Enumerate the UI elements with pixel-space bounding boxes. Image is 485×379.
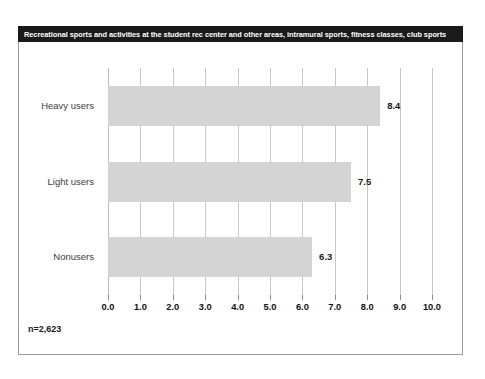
x-axis-tick — [432, 295, 433, 300]
x-axis-tick — [335, 295, 336, 300]
plot-area: 0.01.02.03.04.05.06.07.08.09.010.0Heavy … — [108, 68, 432, 295]
x-axis-tick-label: 1.0 — [134, 302, 147, 312]
x-axis-tick — [302, 295, 303, 300]
bar[interactable] — [108, 162, 351, 202]
x-axis-tick-label: 7.0 — [328, 302, 341, 312]
x-axis-tick — [270, 295, 271, 300]
gridline — [432, 68, 433, 295]
x-axis-tick — [367, 295, 368, 300]
category-label: Nonusers — [53, 237, 94, 277]
x-axis-tick — [173, 295, 174, 300]
x-axis-tick — [400, 295, 401, 300]
x-axis-tick-label: 8.0 — [361, 302, 374, 312]
bar-value-label: 7.5 — [358, 162, 371, 202]
x-axis-tick-label: 4.0 — [231, 302, 244, 312]
x-axis-tick — [238, 295, 239, 300]
bar[interactable] — [108, 86, 380, 126]
x-axis-tick — [140, 295, 141, 300]
x-axis-tick-label: 9.0 — [393, 302, 406, 312]
bar-row: Heavy users8.4 — [108, 86, 432, 126]
x-axis-tick — [108, 295, 109, 300]
chart-title: Recreational sports and activities at th… — [24, 30, 446, 39]
bar-value-label: 6.3 — [319, 237, 332, 277]
x-axis-tick — [205, 295, 206, 300]
x-axis-tick-label: 0.0 — [102, 302, 115, 312]
bar[interactable] — [108, 237, 312, 277]
sample-size-note: n=2,623 — [28, 324, 61, 334]
x-axis-tick-label: 3.0 — [199, 302, 212, 312]
bar-row: Nonusers6.3 — [108, 237, 432, 277]
category-label: Heavy users — [41, 86, 94, 126]
chart-title-bar: Recreational sports and activities at th… — [18, 26, 463, 42]
bar-row: Light users7.5 — [108, 162, 432, 202]
x-axis-tick-label: 5.0 — [264, 302, 277, 312]
category-label: Light users — [48, 162, 94, 202]
x-axis-tick-label: 10.0 — [423, 302, 441, 312]
x-axis-tick-label: 6.0 — [296, 302, 309, 312]
bar-value-label: 8.4 — [387, 86, 400, 126]
x-axis-tick-label: 2.0 — [166, 302, 179, 312]
